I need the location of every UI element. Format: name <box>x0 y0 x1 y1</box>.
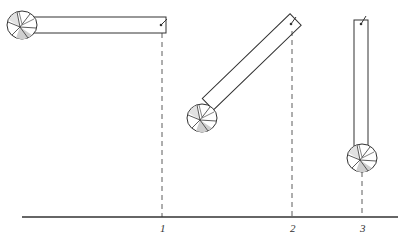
pendulum-diagram: 1 2 3 <box>0 0 416 239</box>
position-label-1: 1 <box>160 222 166 234</box>
position-label-3: 3 <box>359 222 366 234</box>
rod-3 <box>354 20 368 146</box>
ball-2 <box>187 104 217 132</box>
rod-1 <box>30 17 166 33</box>
ball-1 <box>7 11 37 39</box>
position-label-2: 2 <box>290 222 296 234</box>
pendulum-position-1 <box>7 11 167 217</box>
pendulum-position-2 <box>187 14 301 217</box>
pendulum-position-3 <box>347 16 377 217</box>
ball-3 <box>347 144 377 172</box>
rod-2 <box>202 14 301 110</box>
